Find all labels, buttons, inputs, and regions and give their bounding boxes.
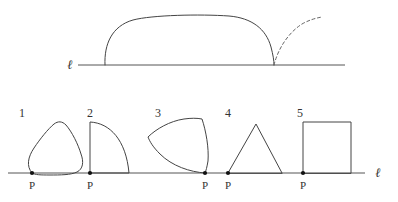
shape-5-square: 5 P — [297, 106, 351, 191]
shape-4-point-label: P — [225, 179, 231, 191]
bottom-line-label: ℓ — [375, 165, 381, 180]
top-dashed-arc — [274, 17, 322, 65]
shape-4-index-label: 4 — [225, 106, 231, 120]
shape-3-reuleaux-triangle: 3 P — [148, 106, 208, 191]
shape-2-outline — [90, 122, 129, 173]
shape-2-index-label: 2 — [87, 106, 93, 120]
shape-3-outline — [148, 118, 208, 173]
shape-5-outline — [303, 122, 351, 173]
shape-5-index-label: 5 — [297, 106, 303, 120]
figure-canvas: ℓ 1 P 2 P 3 — [0, 0, 398, 202]
shape-2-quarter-disc: 2 P — [87, 106, 129, 191]
shape-4-triangle: 4 P — [225, 106, 282, 191]
shape-1-rounded-triangle: 1 P — [19, 106, 83, 191]
top-diagram: ℓ — [67, 15, 345, 72]
shape-1-index-label: 1 — [19, 106, 25, 120]
shape-2-contact-point — [88, 171, 92, 175]
shape-3-index-label: 3 — [155, 106, 161, 120]
shape-1-outline — [28, 122, 82, 175]
shape-2-point-label: P — [87, 179, 93, 191]
shape-5-contact-point — [301, 171, 305, 175]
shape-4-contact-point — [226, 171, 230, 175]
shape-5-point-label: P — [300, 179, 306, 191]
bottom-diagram: 1 P 2 P 3 P 4 P — [8, 106, 381, 191]
top-line-label: ℓ — [67, 57, 73, 72]
shape-3-point-label: P — [202, 179, 208, 191]
shape-3-contact-point — [203, 171, 207, 175]
shape-1-point-label: P — [29, 179, 35, 191]
shape-1-contact-point — [30, 171, 34, 175]
shape-4-outline — [228, 124, 282, 173]
top-convex-body-outline — [105, 15, 274, 65]
geometry-figure: ℓ 1 P 2 P 3 — [0, 0, 398, 202]
